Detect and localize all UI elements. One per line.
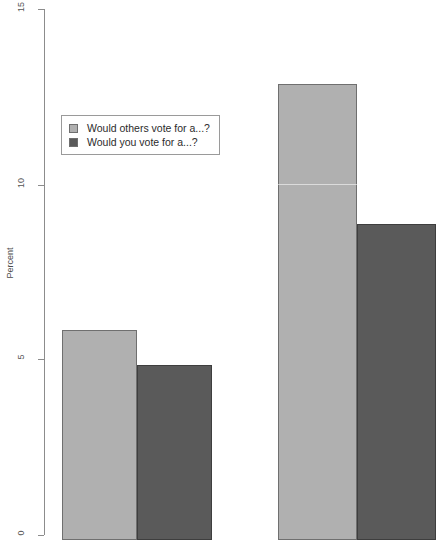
legend-swatch-dark-icon [69, 138, 78, 147]
y-tick-label-5-wrap: 5 [18, 352, 36, 366]
y-axis-title: Percent [5, 233, 15, 293]
legend-entry-1: Would you vote for a...? [69, 135, 210, 149]
legend-entry-0: Would others vote for a...? [69, 121, 210, 135]
plot-area [45, 0, 424, 547]
bar-g1-s1 [62, 330, 137, 540]
y-tick-label-10-wrap: 10 [18, 178, 36, 192]
y-tick-label-0-wrap: 0 [18, 528, 36, 542]
y-tick-15 [38, 9, 44, 10]
bar-g2-s2 [357, 224, 436, 540]
y-tick-5 [38, 359, 44, 360]
y-tick-label-10: 10 [16, 168, 26, 198]
legend-swatch-light-icon [69, 124, 78, 133]
y-tick-10 [38, 185, 44, 186]
y-tick-label-15-wrap: 15 [18, 2, 36, 16]
legend-label-0: Would others vote for a...? [87, 121, 210, 135]
bar-g1-s2 [137, 365, 212, 540]
y-tick-label-15: 15 [16, 0, 26, 22]
gridline-10-overlay [278, 184, 357, 185]
chart-legend: Would others vote for a...? Would you vo… [61, 115, 220, 155]
y-tick-label-5: 5 [16, 342, 26, 372]
y-tick-label-0: 0 [16, 518, 26, 547]
y-tick-0 [38, 535, 44, 536]
bar-g2-s1 [278, 84, 357, 540]
legend-label-1: Would you vote for a...? [87, 135, 198, 149]
